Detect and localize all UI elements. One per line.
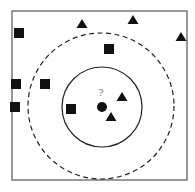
query-label: ? [98, 87, 103, 98]
square-marker [11, 79, 21, 89]
knn-diagram: ? [0, 0, 195, 192]
square-marker [66, 104, 76, 114]
triangle-marker [117, 92, 128, 101]
square-marker [14, 28, 24, 38]
square-marker [104, 44, 114, 54]
triangle-marker [77, 19, 88, 28]
square-marker [40, 79, 50, 89]
triangle-marker [176, 32, 187, 41]
triangle-marker [106, 112, 117, 121]
square-marker [10, 102, 20, 112]
triangle-marker [128, 15, 139, 24]
query-point [97, 102, 107, 112]
